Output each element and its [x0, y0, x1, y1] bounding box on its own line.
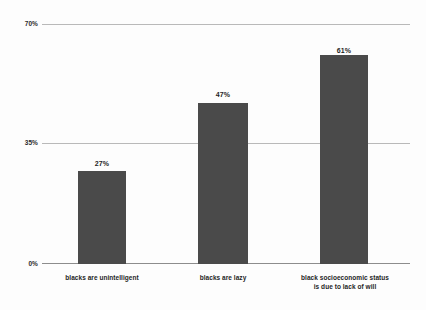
y-axis-tick-label-70: 70%: [14, 20, 38, 27]
bar-value-label-2: 47%: [198, 91, 248, 98]
y-axis-tick-label-0: 0%: [14, 260, 38, 267]
bar-blacks-are-lazy[interactable]: [198, 103, 248, 264]
bar-chart: 70% 35% 0% 27% 47% 61% blacks are uninte…: [0, 0, 426, 310]
bar-value-label-1: 27%: [78, 160, 126, 167]
gridline-70: [42, 24, 410, 25]
bar-black-socioeconomic-status[interactable]: [320, 55, 368, 264]
category-label-1: blacks are unintelligent: [52, 274, 152, 283]
y-axis-tick-label-35: 35%: [14, 139, 38, 146]
category-label-3: black socioeconomic status is due to lac…: [283, 274, 407, 291]
bar-blacks-are-unintelligent[interactable]: [78, 171, 126, 264]
plot-area: [42, 24, 410, 264]
category-label-2: blacks are lazy: [183, 274, 263, 283]
bar-value-label-3: 61%: [320, 47, 368, 54]
